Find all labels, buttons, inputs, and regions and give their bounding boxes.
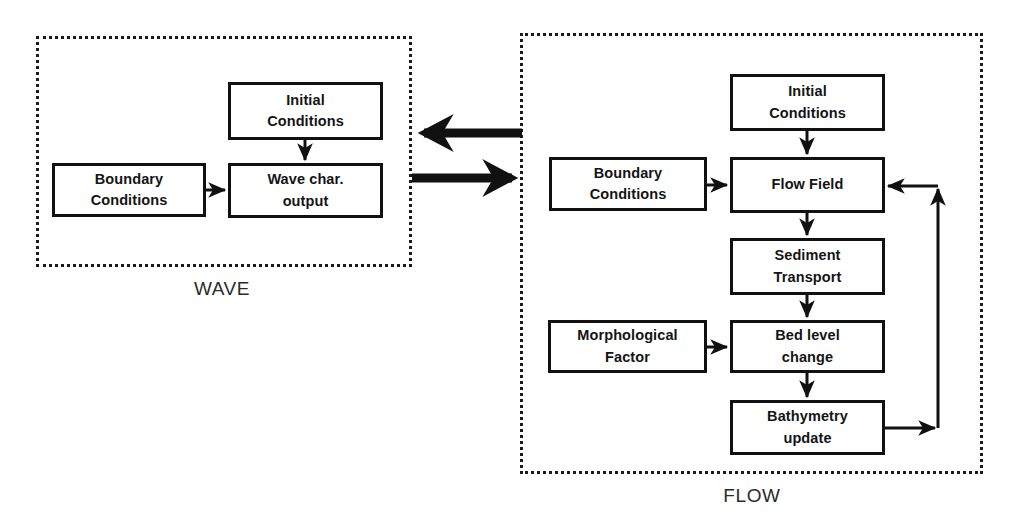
node-flow-field: Flow Field xyxy=(730,157,885,213)
node-wave-boundary-conditions: Boundary Conditions xyxy=(52,163,206,217)
node-line-1: Initial xyxy=(737,81,878,102)
node-line-2: Conditions xyxy=(556,184,700,205)
node-line-2: change xyxy=(737,347,878,368)
node-line-2: Conditions xyxy=(737,103,878,124)
node-flow-bathymetry-update: Bathymetry update xyxy=(730,400,885,455)
node-flow-boundary-conditions: Boundary Conditions xyxy=(549,157,707,211)
node-flow-morphological-factor: Morphological Factor xyxy=(548,320,707,373)
node-line-2: Transport xyxy=(737,267,878,288)
panel-wave-label: WAVE xyxy=(142,278,302,300)
panel-wave xyxy=(36,36,412,267)
node-line-1: Bed level xyxy=(737,325,878,346)
node-line-2: output xyxy=(235,191,376,212)
node-line-2: update xyxy=(737,428,878,449)
node-line-1: Boundary xyxy=(556,163,700,184)
node-line-1: Morphological xyxy=(555,325,700,346)
node-wave-char-output: Wave char. output xyxy=(228,163,383,218)
panel-flow-label: FLOW xyxy=(672,485,832,507)
node-flow-bed-level-change: Bed level change xyxy=(730,320,885,373)
node-wave-initial-conditions: Initial Conditions xyxy=(228,82,383,140)
node-line-2: Factor xyxy=(555,347,700,368)
node-line-1: Boundary xyxy=(59,169,199,190)
node-line-1: Initial xyxy=(235,90,376,111)
node-line-1: Sediment xyxy=(737,245,878,266)
node-line-1: Bathymetry xyxy=(737,406,878,427)
node-line-2: Conditions xyxy=(59,190,199,211)
node-line-1: Wave char. xyxy=(235,169,376,190)
node-flow-sediment-transport: Sediment Transport xyxy=(730,238,885,295)
diagram-canvas: WAVE Initial Conditions Boundary Conditi… xyxy=(0,0,1021,529)
node-line-1: Flow Field xyxy=(737,174,878,195)
node-line-2: Conditions xyxy=(235,111,376,132)
node-flow-initial-conditions: Initial Conditions xyxy=(730,74,885,131)
